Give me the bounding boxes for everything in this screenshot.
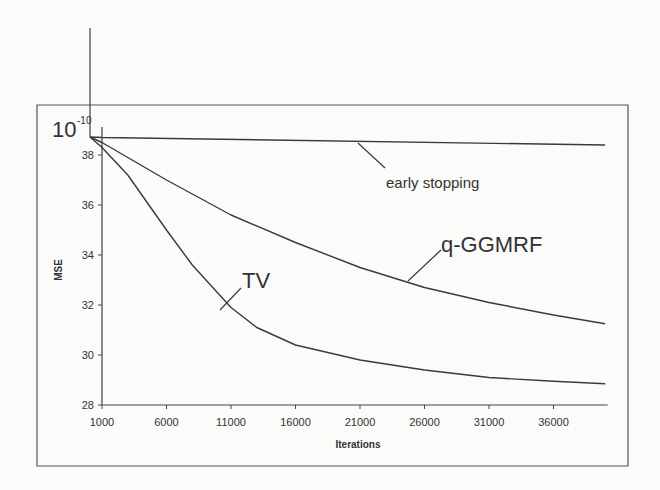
x-tick-label: 26000	[409, 416, 440, 428]
y-tick-label: 38	[82, 149, 94, 161]
x-tick-label: 36000	[538, 416, 569, 428]
axes: 2830323436381000600011000160002100026000…	[82, 127, 608, 428]
x-tick-label: 21000	[345, 416, 376, 428]
x-tick-label: 31000	[474, 416, 505, 428]
series-line-early-stopping	[90, 137, 605, 145]
y-multiplier-base: 10	[52, 117, 76, 142]
series-layer	[90, 137, 605, 384]
annotation-early-stopping-leader	[358, 143, 385, 168]
annotation-q-ggmrf-leader	[408, 250, 441, 281]
y-axis-title: MSE	[53, 259, 64, 281]
y-tick-label: 36	[82, 199, 94, 211]
y-tick-label: 32	[82, 299, 94, 311]
y-tick-label: 30	[82, 349, 94, 361]
series-line-tv	[90, 137, 605, 384]
annotations-layer: early stoppingq-GGMRFTV	[220, 143, 542, 310]
annotation-tv: TV	[242, 268, 270, 293]
x-tick-label: 1000	[90, 416, 114, 428]
annotation-early-stopping: early stopping	[386, 174, 479, 191]
y-tick-label: 28	[82, 399, 94, 411]
y-multiplier-exponent: -10	[77, 115, 92, 126]
mse-vs-iterations-chart: 2830323436381000600011000160002100026000…	[0, 0, 660, 490]
annotation-q-ggmrf: q-GGMRF	[441, 232, 542, 257]
y-tick-label: 34	[82, 249, 94, 261]
x-axis-title: Iterations	[335, 439, 380, 450]
x-tick-label: 11000	[216, 416, 246, 428]
x-tick-label: 6000	[154, 416, 178, 428]
chart-frame-border	[37, 105, 628, 466]
x-tick-label: 16000	[280, 416, 311, 428]
